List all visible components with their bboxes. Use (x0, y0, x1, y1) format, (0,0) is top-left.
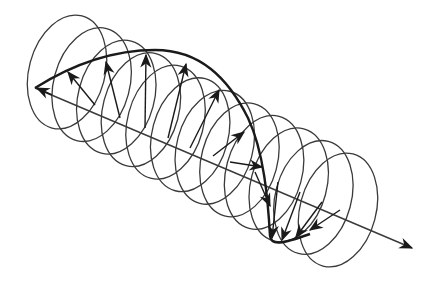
field-vector-arrow (37, 88, 52, 95)
field-vector-arrow (145, 55, 146, 128)
polarization-loop (163, 81, 266, 213)
loop-group (15, 6, 389, 276)
polarization-loop (15, 6, 118, 138)
field-vector-group (37, 55, 340, 240)
polarization-loop (40, 19, 143, 151)
propagation-axis-arrow (35, 88, 412, 248)
field-vector-arrow (230, 162, 262, 167)
polarization-loop (237, 119, 340, 251)
field-vector-arrow (282, 192, 300, 240)
polarization-loop (138, 69, 241, 201)
polarization-loop (114, 56, 217, 188)
field-vector-arrow (68, 72, 95, 105)
polarization-loop (286, 144, 389, 276)
helix-diagram (0, 0, 435, 281)
polarization-loop (89, 44, 192, 176)
diagram-canvas: Helical field rotation along propagation… (0, 0, 435, 281)
